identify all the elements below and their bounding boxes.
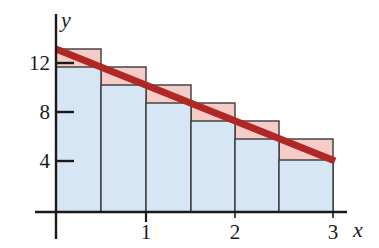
riemann-sum-plot	[0, 0, 379, 248]
inscribed-rect-2	[101, 85, 146, 212]
x-tick-label-1: 1	[132, 222, 160, 243]
x-tick-label-3: 3	[319, 222, 347, 243]
y-axis-label: y	[61, 9, 71, 31]
y-tick-label-8: 8	[18, 102, 50, 123]
inscribed-rect-1	[56, 67, 101, 212]
x-tick-label-2: 2	[221, 222, 249, 243]
y-tick-label-4: 4	[18, 151, 50, 172]
inscribed-rect-3	[146, 103, 191, 212]
figure-root: 12 8 4 1 2 3 y x	[0, 0, 379, 248]
inscribed-rect-5	[235, 139, 279, 212]
inscribed-rect-4	[191, 121, 235, 212]
x-axis-label: x	[353, 219, 363, 241]
y-tick-label-12: 12	[18, 53, 50, 74]
inscribed-rect-6	[279, 160, 333, 212]
